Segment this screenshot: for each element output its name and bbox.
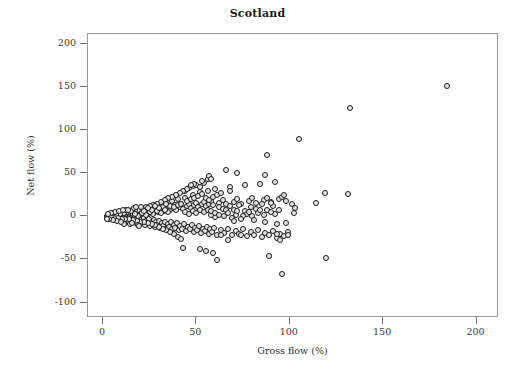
scatter-point xyxy=(129,220,135,226)
scatter-point xyxy=(264,152,270,158)
scatter-point xyxy=(313,200,319,206)
scatter-points-layer xyxy=(88,34,499,318)
scatter-point xyxy=(180,245,186,251)
scatter-point xyxy=(136,223,142,229)
scatter-point xyxy=(118,219,124,225)
y-axis-tick xyxy=(80,43,87,44)
scatter-point xyxy=(285,232,291,238)
scatter-point xyxy=(323,255,329,261)
x-axis-tick-label: 100 xyxy=(264,326,314,337)
scatter-point xyxy=(255,227,261,233)
x-axis-tick xyxy=(289,317,290,324)
scatter-point xyxy=(216,212,222,218)
y-axis-tick-label: 100 xyxy=(36,123,76,134)
scatter-point xyxy=(234,170,240,176)
x-axis-tick xyxy=(102,317,103,324)
y-axis-tick xyxy=(80,172,87,173)
y-axis-tick xyxy=(80,86,87,87)
scatter-point xyxy=(203,248,209,254)
scatter-point xyxy=(218,190,224,196)
scatter-point xyxy=(266,253,272,259)
scatter-point xyxy=(120,207,126,213)
scatter-point xyxy=(444,83,450,89)
scatter-point xyxy=(238,216,244,222)
scatter-point xyxy=(322,190,328,196)
x-axis-tick-label: 50 xyxy=(170,326,220,337)
scatter-point xyxy=(283,220,289,226)
scatter-point xyxy=(261,212,267,218)
scatter-point xyxy=(274,231,280,237)
scatter-point xyxy=(262,172,268,178)
scatter-point xyxy=(178,201,184,207)
scatter-point xyxy=(227,188,233,194)
y-axis-tick xyxy=(80,129,87,130)
scatter-point xyxy=(268,200,274,206)
scatter-point xyxy=(218,232,224,238)
y-axis-tick-label: 50 xyxy=(36,166,76,177)
scatter-point xyxy=(347,105,353,111)
y-axis-tick-label: -100 xyxy=(36,296,76,307)
scatter-point xyxy=(246,209,252,215)
scatter-point xyxy=(211,225,217,231)
scatter-point xyxy=(291,210,297,216)
scatter-point xyxy=(225,226,231,232)
scatter-point xyxy=(238,232,244,238)
scatter-point xyxy=(262,219,268,225)
y-axis-tick xyxy=(80,215,87,216)
scatter-point xyxy=(210,250,216,256)
y-axis-tick-labels: 200150100500-50-100 xyxy=(34,0,76,380)
x-axis-tick-label: 150 xyxy=(357,326,407,337)
y-axis-tick xyxy=(80,258,87,259)
scatter-point xyxy=(205,188,211,194)
scatter-point xyxy=(212,186,218,192)
page-title: Scotland xyxy=(0,7,515,20)
scatter-point xyxy=(132,211,138,217)
y-axis-tick-label: 200 xyxy=(36,37,76,48)
scatter-point xyxy=(251,217,257,223)
x-axis-tick-label: 200 xyxy=(451,326,501,337)
x-axis-tick xyxy=(382,317,383,324)
scatter-point xyxy=(296,136,302,142)
x-axis-tick xyxy=(476,317,477,324)
scatter-point xyxy=(214,257,220,263)
scatter-point xyxy=(274,221,280,227)
y-axis-tick-label: -50 xyxy=(36,252,76,263)
scatter-point xyxy=(225,237,231,243)
scatter-point xyxy=(272,179,278,185)
y-axis-tick xyxy=(80,302,87,303)
x-axis-tick-label: 0 xyxy=(77,326,127,337)
scatter-point xyxy=(279,271,285,277)
x-axis-tick xyxy=(195,317,196,324)
y-axis-tick-label: 0 xyxy=(36,209,76,220)
chart-figure: Scotland 200150100500-50-100 05010015020… xyxy=(0,0,515,380)
scatter-point xyxy=(345,191,351,197)
scatter-point xyxy=(223,167,229,173)
scatter-point xyxy=(292,205,298,211)
scatter-point xyxy=(257,181,263,187)
scatter-point xyxy=(178,236,184,242)
scatter-point xyxy=(208,176,214,182)
plot-area xyxy=(87,33,498,317)
scatter-point xyxy=(231,218,237,224)
scatter-point xyxy=(277,237,283,243)
y-axis-title: Net flow (%) xyxy=(25,86,36,246)
scatter-point xyxy=(242,182,248,188)
y-axis-tick-label: 150 xyxy=(36,80,76,91)
x-axis-title: Gross flow (%) xyxy=(87,345,498,356)
